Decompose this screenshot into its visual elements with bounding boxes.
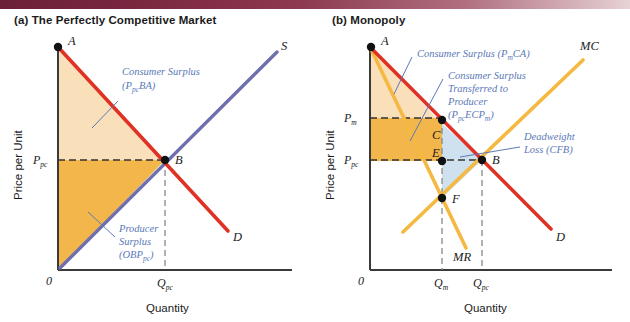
panel-b-chart: A C E B F MC MR D Pm Ppc 0 Qm Qpc Price … [0, 0, 630, 322]
panel-b-cs-suffix: CA) [513, 48, 530, 60]
panel-b-quantity-m-base: Q [434, 276, 443, 290]
panel-b-demand-label: D [555, 230, 565, 244]
panel-b-x-axis-title: Quantity [464, 302, 507, 314]
panel-b-price-pc-tick: Ppc [343, 153, 359, 169]
panel-b-cs-annotation: Consumer Surplus (PmCA) [417, 48, 530, 62]
panel-b-point-C [438, 116, 446, 124]
panel-b-point-A [367, 43, 375, 51]
panel-b-quantity-pc-sub: pc [481, 283, 490, 292]
panel-b-label-C: C [432, 128, 441, 142]
panel-b-label-E: E [431, 146, 440, 160]
panel-b-transfer-mid: ECP [464, 109, 485, 120]
panel-b-origin-label: 0 [358, 274, 364, 288]
panel-b-label-B: B [492, 153, 500, 167]
panel-b-point-F [438, 194, 446, 202]
panel-b-cs-prefix: Consumer Surplus (P [417, 48, 508, 60]
panel-b-dwl-annotation-line1: Deadweight [523, 131, 576, 142]
panel-b-label-F: F [451, 192, 460, 206]
panel-b-marginal-cost-label: MC [579, 39, 599, 53]
panel-b-transfer-annotation-line2: Transferred to [448, 83, 508, 94]
panel-b-quantity-m-sub: m [443, 283, 449, 292]
panel-b-transfer-prefix: (P [448, 109, 458, 121]
panel-b-quantity-m-tick: Qm [434, 276, 449, 292]
panel-b-y-axis-title: Price per Unit [324, 130, 336, 200]
panel-b-label-A: A [380, 34, 389, 48]
panel-b-marginal-revenue-label: MR [452, 250, 471, 264]
panel-b-transfer-annotation-line3: Producer [447, 96, 488, 107]
panel-b-price-pc-sub: pc [350, 160, 359, 169]
panel-b-point-B [478, 156, 486, 164]
panel-b-price-m-tick: Pm [343, 111, 357, 127]
panel-b-quantity-pc-base: Q [473, 276, 482, 290]
panel-b-price-m-sub: m [351, 118, 357, 127]
panel-b-transfer-annotation-line4: (PpcECPm) [448, 109, 494, 123]
panel-b-transfer-annotation-line1: Consumer Surplus [448, 70, 526, 81]
panel-b-quantity-pc-tick: Qpc [473, 276, 489, 292]
panel-b-dwl-annotation-line2: Loss (CFB) [523, 144, 573, 156]
panel-b-transfer-suffix: ) [489, 109, 494, 121]
economics-figure: (a) The Perfectly Competitive Market (b)… [0, 0, 630, 322]
